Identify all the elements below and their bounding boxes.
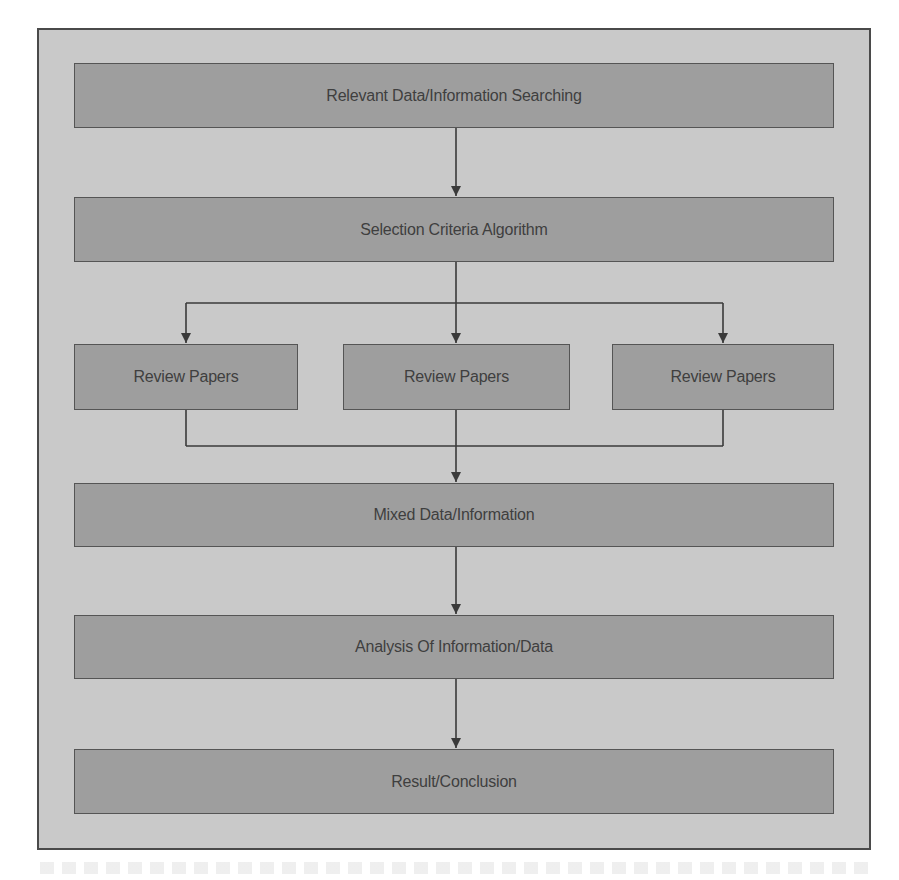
node-review-2: Review Papers [343, 344, 570, 410]
node-review-2-label: Review Papers [404, 368, 509, 386]
node-search-label: Relevant Data/Information Searching [326, 87, 581, 105]
node-result: Result/Conclusion [74, 749, 834, 814]
node-analysis-label: Analysis Of Information/Data [355, 638, 553, 656]
diagram-frame [37, 28, 871, 850]
node-mixed: Mixed Data/Information [74, 483, 834, 547]
node-analysis: Analysis Of Information/Data [74, 615, 834, 679]
node-mixed-label: Mixed Data/Information [373, 506, 534, 524]
node-review-1: Review Papers [74, 344, 298, 410]
node-review-3-label: Review Papers [670, 368, 775, 386]
scan-bleed-through [40, 862, 870, 874]
node-result-label: Result/Conclusion [391, 773, 517, 791]
node-selection: Selection Criteria Algorithm [74, 197, 834, 262]
node-search: Relevant Data/Information Searching [74, 63, 834, 128]
node-selection-label: Selection Criteria Algorithm [360, 221, 547, 239]
node-review-3: Review Papers [612, 344, 834, 410]
node-review-1-label: Review Papers [133, 368, 238, 386]
